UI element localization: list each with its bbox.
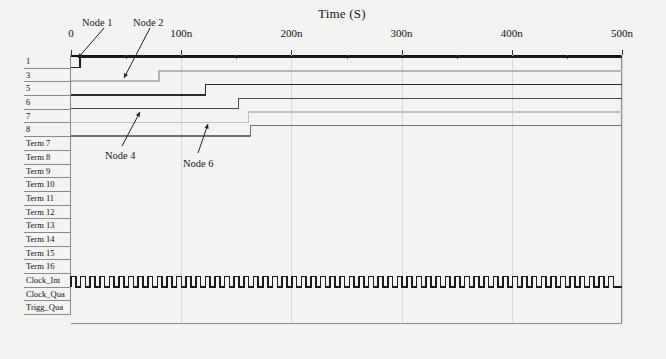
gridline [622,55,623,323]
waveform-trace-5 [71,85,622,95]
chart-title: Time (S) [318,6,366,22]
signal-label-term-14[interactable]: Term 14 [24,233,71,247]
waveform-trace-3 [71,71,622,81]
signal-label-1[interactable]: 1 [24,55,71,69]
signal-label-6[interactable]: 6 [24,96,71,110]
signal-label-term-16[interactable]: Term 16 [24,260,71,274]
signal-label-term-10[interactable]: Term 10 [24,178,71,192]
axis-tick-label: 400n [501,27,523,39]
signal-label-term-11[interactable]: Term 11 [24,192,71,206]
signal-label-7[interactable]: 7 [24,110,71,124]
waveform-viewer-root: Time (S) 0100n200n300n400n500n 135678Ter… [0,0,666,359]
signal-label-term-8[interactable]: Term 8 [24,151,71,165]
annotation-node-6: Node 6 [183,158,214,169]
annotation-node-2: Node 2 [133,17,164,28]
waveform-trace-6 [71,98,622,108]
signal-label-term-15[interactable]: Term 15 [24,247,71,261]
axis-tick-label: 200n [280,27,302,39]
annotation-node-1: Node 1 [82,17,113,28]
waveform-trace-1 [71,57,622,67]
axis-tick-label: 500n [611,27,633,39]
signal-label-term-9[interactable]: Term 9 [24,165,71,179]
signal-label-column: 135678Term 7Term 8Term 9Term 10Term 11Te… [24,55,71,315]
signal-label-trigg-qua[interactable]: Trigg_Qua [24,301,71,315]
signal-label-term-7[interactable]: Term 7 [24,137,71,151]
signal-label-term-12[interactable]: Term 12 [24,206,71,220]
axis-tick-label: 300n [391,27,413,39]
signal-label-clock-int[interactable]: Clock_Int [24,274,71,288]
signal-label-5[interactable]: 5 [24,82,71,96]
waveform-canvas [71,55,622,324]
signal-label-clock-qua[interactable]: Clock_Qua [24,288,71,302]
waveform-trace-clock-int [71,276,622,286]
signal-label-3[interactable]: 3 [24,69,71,83]
waveform-trace-8 [71,126,622,136]
signal-label-8[interactable]: 8 [24,123,71,137]
axis-tick-label: 0 [68,27,74,39]
waveform-trace-7 [71,112,622,122]
signal-label-term-13[interactable]: Term 13 [24,219,71,233]
annotation-node-4: Node 4 [105,150,136,161]
axis-tick-label: 100n [170,27,192,39]
